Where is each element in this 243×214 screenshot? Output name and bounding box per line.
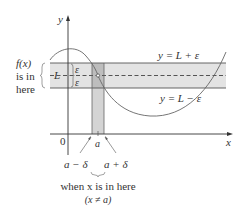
epsilon-delta-diagram: y x 0 y = L + ε y = L − ε L ε ε f(x) is …: [0, 0, 243, 214]
y-axis-label: y: [57, 13, 63, 25]
a-plus-delta-label: a + δ: [104, 158, 128, 170]
y-axis-arrow-icon: [66, 15, 70, 21]
bottom-brace: [91, 172, 105, 177]
when-x-label: when x is in here: [60, 180, 135, 192]
epsilon-lower-label: ε: [75, 77, 79, 88]
origin-label: 0: [60, 135, 66, 147]
epsilon-upper-label: ε: [75, 64, 79, 75]
a-label: a: [95, 138, 100, 149]
upper-bound-label: y = L + ε: [157, 49, 200, 61]
fx-label: f(x): [16, 57, 32, 70]
x-not-a-label: (x ≠ a): [85, 194, 112, 206]
x-axis-label: x: [225, 136, 231, 148]
here-label: here: [16, 83, 35, 95]
limit-L-label: L: [53, 69, 60, 81]
lower-bound-label: y = L − ε: [159, 92, 202, 104]
limit-point-hole: [96, 74, 99, 77]
a-minus-delta-label: a − δ: [64, 158, 88, 170]
is-in-label: is in: [16, 70, 35, 82]
left-brace: [40, 63, 45, 88]
